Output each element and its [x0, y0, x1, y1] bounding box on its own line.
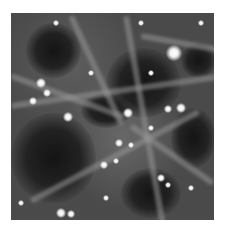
halo [115, 139, 123, 147]
halo [56, 208, 66, 218]
halo [176, 103, 186, 113]
halo [113, 158, 119, 164]
halo [123, 108, 133, 118]
halo [148, 125, 154, 131]
halo [100, 161, 108, 169]
halo [88, 70, 94, 76]
halo [198, 20, 204, 26]
halo [67, 210, 75, 218]
halo [128, 142, 134, 148]
halo [188, 185, 194, 191]
halo [157, 174, 165, 182]
halo [29, 97, 37, 105]
halo [36, 78, 46, 88]
halo [53, 20, 59, 26]
halo [103, 195, 109, 201]
halo [138, 20, 144, 26]
halo [166, 45, 182, 61]
cosmic-web-image [11, 13, 214, 220]
halo [164, 105, 172, 113]
halo [18, 200, 24, 206]
void-region [26, 23, 81, 78]
halo [148, 70, 154, 76]
halo [165, 182, 171, 188]
halo [43, 89, 51, 97]
halo [63, 112, 73, 122]
